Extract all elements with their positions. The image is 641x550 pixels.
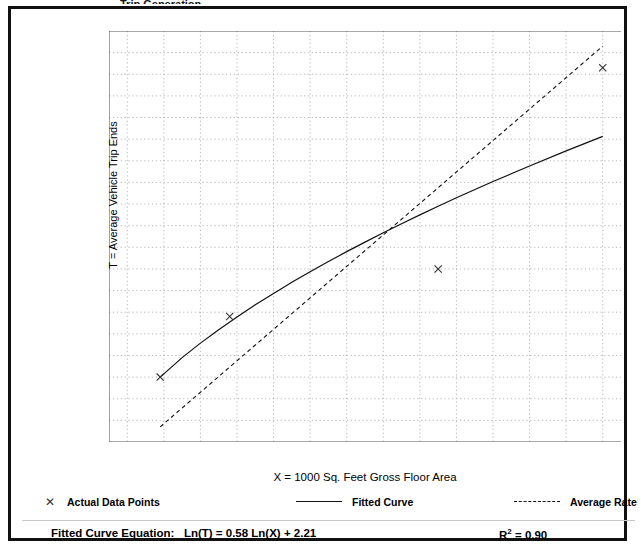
legend-item-average-rate: Average Rate	[514, 496, 637, 508]
y-axis-title: T = Average Vehicle Trip Ends	[107, 85, 119, 305]
x-axis-title: X = 1000 Sq. Feet Gross Floor Area	[109, 471, 621, 483]
x-marker-icon: ✕	[43, 496, 57, 508]
series-line-average-rate	[160, 46, 603, 427]
r-squared-exponent: 2	[507, 527, 511, 536]
legend-item-fitted-curve: Fitted Curve	[296, 496, 413, 508]
chart-canvas: 2030405060708090100110120130140150160170…	[109, 31, 621, 442]
legend-item-actual-data-points: ✕ Actual Data Points	[43, 496, 160, 508]
figure-frame: 2030405060708090100110120130140150160170…	[8, 6, 627, 541]
chart-legend: ✕ Actual Data Points Fitted Curve Averag…	[31, 496, 626, 518]
clipped-header-text: Trip Generation	[120, 0, 201, 4]
r-squared-annotation: R2 = 0.90	[499, 527, 547, 541]
series-line-fitted-curve	[160, 136, 603, 377]
dashed-line-icon	[514, 496, 560, 508]
equation-value: Ln(T) = 0.58 Ln(X) + 2.21	[184, 527, 316, 539]
legend-label-average-rate: Average Rate	[570, 496, 637, 508]
data-point-marker	[226, 313, 233, 320]
r-squared-value: = 0.90	[515, 529, 547, 541]
fitted-curve-equation: Fitted Curve Equation: Ln(T) = 0.58 Ln(X…	[51, 527, 316, 539]
chart-page: Trip Generation 203040506070809010011012…	[0, 0, 641, 550]
plot-area: 2030405060708090100110120130140150160170…	[109, 31, 621, 442]
solid-line-icon	[296, 496, 342, 508]
equation-row: Fitted Curve Equation: Ln(T) = 0.58 Ln(X…	[31, 527, 626, 549]
equation-label: Fitted Curve Equation:	[51, 527, 174, 539]
legend-divider	[22, 520, 635, 521]
data-point-marker	[157, 374, 164, 381]
legend-label-fitted-curve: Fitted Curve	[352, 496, 413, 508]
legend-label-actual-data-points: Actual Data Points	[67, 496, 160, 508]
